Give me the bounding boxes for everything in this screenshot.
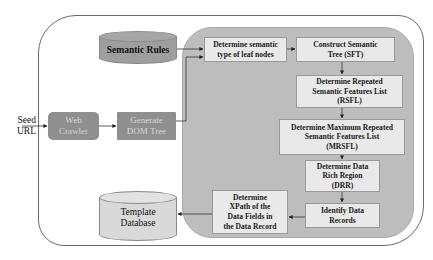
template-database-label: Template Database: [99, 206, 177, 230]
construct-sft-node: Construct Semantic Tree (SFT): [296, 37, 395, 62]
template-database: Template Database: [99, 191, 177, 241]
semantic-rules-label: Semantic Rules: [99, 41, 177, 59]
identify-data-records-node: Identify Data Records: [305, 203, 380, 228]
seed-url-label: Seed URL: [6, 115, 36, 136]
drr-node: Determine Data Rich Region (DRR): [305, 160, 380, 192]
mrsfl-node: Determine Maximum Repeated Semantic Feat…: [279, 119, 405, 155]
determine-xpath-node: Determine XPath of the Data Fields in th…: [212, 190, 288, 234]
web-crawler-node: Web Crawler: [48, 112, 99, 140]
generate-dom-tree-node: Generate DOM Tree: [117, 112, 176, 140]
cylinder-top: [99, 191, 177, 204]
rsfl-node: Determine Repeated Semantic Features Lis…: [296, 75, 403, 108]
determine-semantic-type-node: Determine semantic type of leaf nodes: [204, 37, 287, 62]
semantic-rules-database: Semantic Rules: [99, 31, 177, 64]
